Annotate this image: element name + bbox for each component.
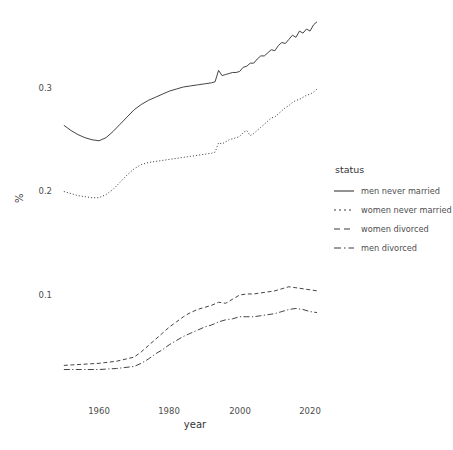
chart-figure: 0.3 0.2 0.1 % 1960 1980 2000 2020 year s…: [0, 0, 453, 450]
x-tick-1980: 1980: [158, 407, 180, 416]
legend-label-women-divorced: women divorced: [361, 225, 429, 233]
legend-label-men-never-married: men never married: [361, 187, 440, 195]
legend-label-men-divorced: men divorced: [361, 244, 417, 252]
legend-item-women-never-married[interactable]: women never married: [333, 201, 451, 220]
legend-key-longdashdot-icon: [333, 242, 355, 254]
legend-key-dotted-icon: [333, 204, 355, 216]
legend: status men never married women never mar…: [333, 165, 451, 258]
legend-item-men-never-married[interactable]: men never married: [333, 182, 451, 201]
legend-item-men-divorced[interactable]: men divorced: [333, 239, 451, 258]
legend-key-dashed-icon: [333, 223, 355, 235]
legend-title: status: [335, 165, 451, 175]
legend-key-solid-icon: [333, 185, 355, 197]
legend-label-women-never-married: women never married: [361, 206, 452, 214]
x-tick-1960: 1960: [88, 407, 110, 416]
x-axis-title: year: [0, 419, 390, 430]
legend-item-women-divorced[interactable]: women divorced: [333, 220, 451, 239]
x-tick-2000: 2000: [229, 407, 251, 416]
x-tick-2020: 2020: [299, 407, 321, 416]
